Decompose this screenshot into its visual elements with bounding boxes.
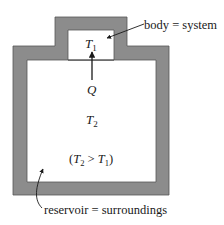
body-system-label: body = system <box>144 18 217 32</box>
reservoir-surroundings-label: reservoir = surroundings <box>44 203 167 217</box>
diagram-canvas: T1 Q T2 (T2 > T1) body = system reservoi… <box>0 0 224 225</box>
heat-label: Q <box>87 82 97 97</box>
